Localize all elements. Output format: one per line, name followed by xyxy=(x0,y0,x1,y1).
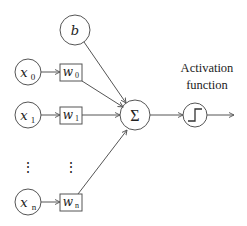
activation-node xyxy=(183,103,207,127)
svg-text:w: w xyxy=(63,65,74,79)
weight-box-1: w 1 xyxy=(60,107,82,124)
ellipsis-weights: ⋮ xyxy=(64,160,78,175)
ellipsis-inputs: ⋮ xyxy=(21,160,35,175)
svg-text:x: x xyxy=(20,195,28,210)
svg-text:n: n xyxy=(32,202,37,212)
sigma-label: Σ xyxy=(130,107,139,124)
svg-text:0: 0 xyxy=(75,71,79,80)
weight-edge-0 xyxy=(82,81,123,107)
input-node-1: x 1 xyxy=(15,102,41,128)
bias-edge xyxy=(84,42,126,103)
svg-text:w: w xyxy=(63,195,74,209)
step-function-icon xyxy=(188,109,202,121)
svg-text:x: x xyxy=(20,65,28,80)
bias-label: b xyxy=(71,23,79,38)
svg-text:0: 0 xyxy=(31,72,36,82)
weight-box-0: w 0 xyxy=(60,64,82,81)
weight-edge-n xyxy=(78,130,127,194)
sum-node: Σ xyxy=(120,100,150,130)
weight-box-n: w n xyxy=(60,194,82,211)
input-node-n: x n xyxy=(15,189,41,215)
svg-text:n: n xyxy=(75,201,79,210)
svg-text:1: 1 xyxy=(75,114,79,123)
svg-text:w: w xyxy=(63,108,74,122)
input-node-0: x 0 xyxy=(15,59,41,85)
perceptron-diagram: b x 0 w 0 x 1 w 1 ⋮ ⋮ x n w n xyxy=(0,0,247,226)
activation-function-label: Activation function xyxy=(170,60,244,94)
svg-text:1: 1 xyxy=(31,115,36,125)
bias-node: b xyxy=(60,15,90,45)
svg-text:x: x xyxy=(20,108,28,123)
